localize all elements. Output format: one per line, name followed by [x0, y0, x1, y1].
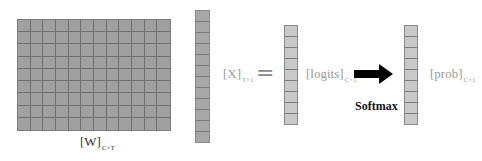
matrix-cell: [69, 106, 82, 118]
matrix-cell: [132, 81, 145, 93]
matrix-cell: [56, 44, 69, 56]
vector-cell: [285, 37, 297, 48]
matrix-cell: [81, 106, 94, 118]
matrix-w-subscript: C×T: [102, 144, 115, 152]
matrix-cell: [94, 20, 107, 32]
matrix-cell: [132, 69, 145, 81]
matrix-cell: [132, 32, 145, 44]
matrix-cell: [31, 106, 44, 118]
vector-x-label-text: [X]: [223, 66, 241, 81]
matrix-cell: [119, 20, 132, 32]
matrix-cell: [18, 106, 31, 118]
matrix-cell: [107, 93, 120, 105]
matrix-cell: [94, 69, 107, 81]
vector-cell: [285, 81, 297, 92]
vector-cell: [285, 59, 297, 70]
matrix-cell: [43, 93, 56, 105]
matrix-cell: [18, 81, 31, 93]
matrix-cell: [119, 44, 132, 56]
matrix-cell: [81, 69, 94, 81]
matrix-cell: [132, 118, 145, 130]
vector-cell: [196, 110, 209, 121]
matrix-cell: [18, 20, 31, 32]
matrix-cell: [31, 81, 44, 93]
matrix-cell: [56, 20, 69, 32]
matrix-cell: [81, 57, 94, 69]
matrix-cell: [81, 81, 94, 93]
matrix-cell: [132, 57, 145, 69]
matrix-cell: [94, 93, 107, 105]
matrix-cell: [157, 20, 170, 32]
vector-cell: [196, 132, 209, 142]
matrix-cell: [107, 57, 120, 69]
vector-cell: [405, 70, 417, 81]
matrix-cell: [31, 20, 44, 32]
matrix-cell: [157, 118, 170, 130]
prob-subscript: C×1: [464, 76, 476, 84]
matrix-cell: [69, 44, 82, 56]
matrix-w-label-text: [W]: [80, 134, 101, 149]
matrix-cell: [132, 93, 145, 105]
vector-cell: [196, 55, 209, 66]
matrix-cell: [107, 20, 120, 32]
matrix-cell: [94, 106, 107, 118]
matrix-cell: [81, 44, 94, 56]
vector-cell: [285, 70, 297, 81]
matrix-cell: [94, 32, 107, 44]
matrix-cell: [18, 93, 31, 105]
matrix-cell: [157, 57, 170, 69]
matrix-cell: [43, 69, 56, 81]
matrix-cell: [119, 57, 132, 69]
matrix-cell: [119, 93, 132, 105]
vector-cell: [405, 26, 417, 37]
matrix-cell: [157, 44, 170, 56]
vector-x-subscript: T×1: [242, 76, 254, 84]
matrix-cell: [94, 118, 107, 130]
vector-cell: [196, 88, 209, 99]
matrix-cell: [69, 32, 82, 44]
vector-cell: [405, 59, 417, 70]
vector-cell: [405, 92, 417, 103]
matrix-cell: [119, 69, 132, 81]
matrix-cell: [107, 32, 120, 44]
matrix-cell: [145, 20, 158, 32]
matrix-cell: [56, 32, 69, 44]
matrix-cell: [18, 57, 31, 69]
matrix-cell: [119, 118, 132, 130]
vector-cell: [405, 81, 417, 92]
matrix-cell: [31, 93, 44, 105]
matrix-cell: [157, 32, 170, 44]
matrix-cell: [145, 81, 158, 93]
matrix-cell: [145, 32, 158, 44]
matrix-cell: [56, 106, 69, 118]
vector-cell: [405, 114, 417, 124]
vector-cell: [196, 44, 209, 55]
matrix-cell: [43, 106, 56, 118]
vector-cell: [405, 103, 417, 114]
matrix-cell: [31, 32, 44, 44]
matrix-cell: [145, 106, 158, 118]
matrix-cell: [18, 118, 31, 130]
matrix-cell: [157, 93, 170, 105]
matrix-cell: [81, 118, 94, 130]
matrix-cell: [56, 69, 69, 81]
matrix-cell: [69, 93, 82, 105]
matrix-cell: [107, 106, 120, 118]
matrix-cell: [69, 57, 82, 69]
matrix-cell: [132, 20, 145, 32]
matrix-cell: [81, 20, 94, 32]
matrix-cell: [56, 118, 69, 130]
matrix-cell: [145, 69, 158, 81]
vector-cell: [405, 37, 417, 48]
matrix-cell: [94, 44, 107, 56]
matrix-cell: [31, 44, 44, 56]
matrix-cell: [18, 32, 31, 44]
matrix-cell: [18, 44, 31, 56]
matrix-cell: [107, 44, 120, 56]
matrix-cell: [43, 81, 56, 93]
matrix-cell: [157, 81, 170, 93]
matrix-cell: [145, 57, 158, 69]
equals-sign: =: [256, 60, 274, 85]
matrix-cell: [132, 44, 145, 56]
weight-matrix-w: [17, 19, 171, 131]
